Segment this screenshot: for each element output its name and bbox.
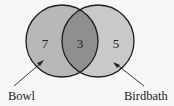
bowl-only-count: 7 — [42, 36, 49, 51]
birdbath-only-count: 5 — [113, 36, 120, 51]
intersection-count: 3 — [77, 36, 84, 51]
birdbath-label: Birdbath — [124, 89, 168, 103]
venn-diagram: 7 3 5 Bowl Birdbath — [0, 0, 174, 106]
bowl-arrow — [14, 60, 44, 86]
birdbath-arrow — [113, 62, 144, 86]
bowl-label: Bowl — [8, 89, 36, 103]
